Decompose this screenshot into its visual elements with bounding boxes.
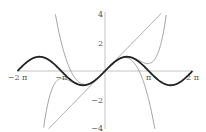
x-tick-label: π [146,73,151,82]
y-tick-label: −4 [91,124,103,132]
plot-area: −2 π−ππ2 π42−2−4 [0,0,206,132]
y-tick-label: 2 [98,39,103,48]
y-tick-label: 4 [98,10,103,19]
y-tick-label: −2 [91,96,103,105]
x-tick-label: −2 π [8,73,28,82]
